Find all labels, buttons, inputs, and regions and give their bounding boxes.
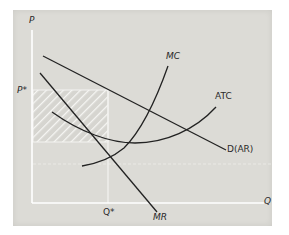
diagram-canvas [0, 0, 289, 235]
p-star-label: P* [17, 86, 27, 95]
profit-area-hatched [33, 90, 108, 142]
q-star-label: Q* [103, 208, 115, 217]
marginal-cost-label: MC [166, 52, 180, 61]
demand-label: D(AR) [227, 145, 253, 154]
marginal-revenue-label: MR [153, 213, 167, 222]
y-axis-label: P [29, 16, 34, 25]
average-total-cost-label: ATC [215, 92, 232, 101]
x-axis-label: Q [264, 197, 271, 206]
